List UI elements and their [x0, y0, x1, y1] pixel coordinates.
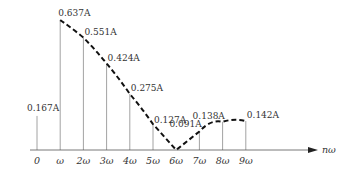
x-tick-label: ω [56, 155, 64, 166]
value-label: 0.091A [169, 119, 202, 129]
value-label: 0.551A [84, 27, 117, 37]
value-label: 0.637A [58, 8, 91, 18]
x-tick-label: 9ω [239, 155, 253, 166]
value-label: 0.142A [247, 110, 280, 120]
x-tick-label: 0 [34, 155, 40, 166]
value-label: 0.424A [108, 53, 141, 63]
x-tick-labels: 0ω2ω3ω4ω5ω6ω7ω8ω9ω [34, 155, 253, 166]
value-label: 0.275A [131, 83, 164, 93]
spectrum-chart: nω 0ω2ω3ω4ω5ω6ω7ω8ω9ω 0.167A0.637A0.551A… [0, 0, 350, 171]
x-tick-label: 4ω [122, 155, 137, 166]
x-tick-label: 7ω [193, 155, 207, 166]
x-tick-label: 2ω [76, 155, 91, 166]
value-label: 0.167A [27, 103, 60, 113]
x-axis-arrow-icon [308, 147, 318, 153]
value-label: 0.138A [193, 111, 226, 121]
x-tick-label: 5ω [146, 155, 160, 166]
x-tick-label: 3ω [100, 155, 114, 166]
value-labels: 0.167A0.637A0.551A0.424A0.275A0.127A0.09… [27, 8, 280, 129]
x-tick-label: 8ω [216, 155, 230, 166]
x-axis-label: nω [322, 144, 336, 155]
x-tick-label: 6ω [169, 155, 183, 166]
